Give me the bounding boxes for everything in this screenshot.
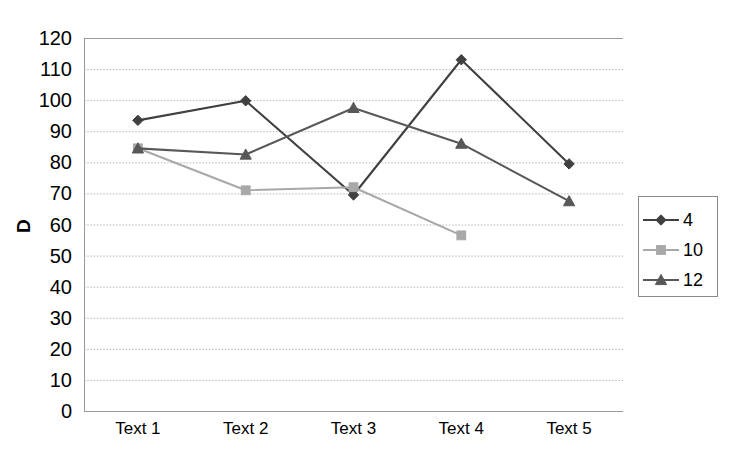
legend-item-10: 10 [639,235,719,265]
x-tick-label: Text 4 [439,419,484,439]
data-point-marker [657,246,666,255]
triangle-icon [639,269,683,291]
line-chart: D 0102030405060708090100110120 Text 1Tex… [0,0,735,475]
x-tick-label: Text 5 [546,419,591,439]
legend-label: 10 [683,241,703,259]
legend-item-12: 12 [639,265,719,295]
legend: 41012 [638,196,718,297]
legend-label: 12 [683,271,703,289]
x-tick-label: Text 2 [223,419,268,439]
x-tick-label: Text 1 [115,419,160,439]
legend-label: 4 [683,211,693,229]
x-tick-label: Text 3 [331,419,376,439]
legend-item-4: 4 [639,205,719,235]
diamond-icon [639,209,683,231]
square-icon [639,239,683,261]
data-point-marker [656,215,666,225]
x-axis-tick-labels: Text 1Text 2Text 3Text 4Text 5 [0,0,735,475]
